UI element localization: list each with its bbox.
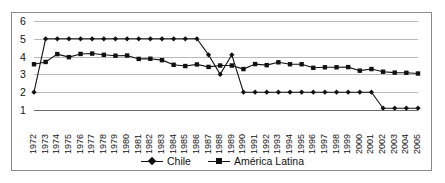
x-tick-label: 1999 xyxy=(343,134,352,154)
x-tick-label: 1976 xyxy=(76,134,85,154)
x-tick-label: 1979 xyxy=(110,134,119,154)
x-tick-label: 2005 xyxy=(413,134,422,154)
x-axis-labels: 1972197319741975197619771978197919801981… xyxy=(34,112,418,154)
x-tick-label: 1989 xyxy=(227,134,236,154)
x-tick-label: 1996 xyxy=(308,134,317,154)
x-tick-label: 1973 xyxy=(41,134,50,154)
x-tick-label: 1975 xyxy=(64,134,73,154)
x-tick-label: 1978 xyxy=(99,134,108,154)
x-tick-label: 1987 xyxy=(204,134,213,154)
y-tick-label: 6 xyxy=(20,16,26,27)
x-tick-label: 1984 xyxy=(169,134,178,154)
x-tick-label: 1990 xyxy=(238,134,247,154)
legend-label: Chile xyxy=(167,156,191,167)
x-tick-label: 1994 xyxy=(285,134,294,154)
y-tick-label: 1 xyxy=(20,105,26,116)
x-tick-label: 2001 xyxy=(366,134,375,154)
chart-figure: 123456 197219731974197519761977197819791… xyxy=(0,0,445,183)
y-tick-label: 3 xyxy=(20,69,26,80)
legend-item-chile[interactable]: Chile xyxy=(141,156,191,167)
x-tick-label: 1986 xyxy=(192,134,201,154)
y-tick-label: 5 xyxy=(20,34,26,45)
legend-label: América Latina xyxy=(234,156,304,167)
x-tick-label: 1991 xyxy=(250,134,259,154)
x-tick-label: 1995 xyxy=(297,134,306,154)
x-tick-label: 2003 xyxy=(390,134,399,154)
x-tick-label: 1972 xyxy=(29,134,38,154)
x-tick-label: 2002 xyxy=(378,134,387,154)
x-tick-label: 1983 xyxy=(157,134,166,154)
x-tick-label: 1981 xyxy=(134,134,143,154)
chart-legend: Chile América Latina xyxy=(0,152,445,170)
x-tick-label: 1997 xyxy=(320,134,329,154)
y-tick-label: 4 xyxy=(20,52,26,63)
square-marker-icon xyxy=(208,157,230,166)
x-tick-label: 1982 xyxy=(145,134,154,154)
x-tick-label: 1977 xyxy=(87,134,96,154)
x-tick-label: 1992 xyxy=(262,134,271,154)
diamond-marker-icon xyxy=(141,157,163,166)
x-tick-label: 1993 xyxy=(273,134,282,154)
x-tick-label: 1988 xyxy=(215,134,224,154)
x-tick-label: 1998 xyxy=(332,134,341,154)
x-tick-label: 1974 xyxy=(52,134,61,154)
x-tick-label: 1980 xyxy=(122,134,131,154)
x-tick-label: 1985 xyxy=(180,134,189,154)
y-tick-label: 2 xyxy=(20,87,26,98)
x-tick-label: 2000 xyxy=(355,134,364,154)
x-tick-label: 2004 xyxy=(401,134,410,154)
legend-item-america-latina[interactable]: América Latina xyxy=(208,156,304,167)
